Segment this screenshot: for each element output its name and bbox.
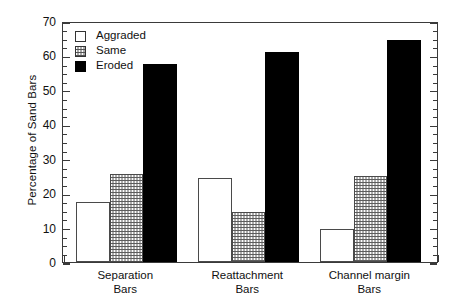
bar-eroded-3	[387, 40, 421, 262]
plot-area: Aggraded Same Eroded	[62, 22, 438, 263]
y-minor-tick	[63, 48, 67, 49]
y-minor-tick	[433, 177, 437, 178]
y-minor-tick	[433, 212, 437, 213]
x-major-tick	[438, 255, 439, 262]
y-minor-tick	[433, 152, 437, 153]
y-major-tick	[63, 229, 70, 230]
bar-same-1	[110, 174, 144, 262]
legend-item-eroded: Eroded	[75, 59, 146, 73]
y-minor-tick	[63, 186, 67, 187]
y-major-tick	[430, 91, 437, 92]
y-minor-tick	[433, 220, 437, 221]
y-minor-tick	[433, 31, 437, 32]
y-tick-label: 30	[28, 154, 56, 166]
x-category-label-line1: Separation	[97, 269, 153, 281]
y-major-tick	[63, 57, 70, 58]
bar-aggraded-3	[320, 229, 354, 262]
y-major-tick	[430, 160, 437, 161]
bar-aggraded-1	[76, 202, 110, 262]
y-tick-label: 60	[28, 50, 56, 62]
legend-label-aggraded: Aggraded	[96, 30, 146, 42]
y-minor-tick	[63, 177, 67, 178]
y-major-tick	[430, 57, 437, 58]
legend-swatch-eroded-icon	[75, 61, 86, 72]
legend-swatch-same-icon	[75, 46, 86, 57]
y-minor-tick	[63, 100, 67, 101]
y-minor-tick	[433, 238, 437, 239]
bar-chart-figure: Percentage of Sand Bars 010203040506070 …	[0, 0, 451, 308]
bar-same-3	[354, 176, 388, 262]
y-minor-tick	[433, 109, 437, 110]
y-major-tick	[430, 263, 437, 264]
y-minor-tick	[63, 40, 67, 41]
y-minor-tick	[433, 203, 437, 204]
legend-label-same: Same	[96, 45, 126, 57]
y-major-tick	[63, 126, 70, 127]
y-minor-tick	[63, 220, 67, 221]
y-minor-tick	[63, 152, 67, 153]
x-major-tick	[64, 255, 65, 262]
y-minor-tick	[433, 143, 437, 144]
legend-label-eroded: Eroded	[96, 60, 133, 72]
y-major-tick	[63, 22, 70, 23]
x-category-label-line2: Bars	[289, 282, 449, 296]
y-major-tick	[430, 195, 437, 196]
y-minor-tick	[63, 66, 67, 67]
y-minor-tick	[433, 83, 437, 84]
x-category-label: Channel marginBars	[289, 268, 449, 296]
y-major-tick	[430, 229, 437, 230]
legend-swatch-aggraded-icon	[75, 31, 86, 42]
y-major-tick	[63, 91, 70, 92]
legend-item-aggraded: Aggraded	[75, 29, 146, 43]
y-tick-label: 40	[28, 119, 56, 131]
y-minor-tick	[433, 66, 437, 67]
bar-eroded-2	[265, 52, 299, 262]
y-minor-tick	[433, 48, 437, 49]
y-minor-tick	[433, 255, 437, 256]
y-major-tick	[63, 195, 70, 196]
y-major-tick	[63, 160, 70, 161]
y-major-tick	[430, 22, 437, 23]
y-minor-tick	[433, 134, 437, 135]
y-minor-tick	[63, 134, 67, 135]
y-major-tick	[63, 263, 70, 264]
x-category-label-line1: Reattachment	[211, 269, 283, 281]
bar-aggraded-2	[198, 178, 232, 262]
y-tick-label: 50	[28, 85, 56, 97]
y-minor-tick	[63, 238, 67, 239]
y-minor-tick	[433, 40, 437, 41]
y-minor-tick	[63, 109, 67, 110]
y-minor-tick	[433, 246, 437, 247]
y-minor-tick	[63, 117, 67, 118]
y-minor-tick	[433, 74, 437, 75]
y-minor-tick	[433, 117, 437, 118]
y-minor-tick	[63, 246, 67, 247]
y-minor-tick	[63, 74, 67, 75]
y-minor-tick	[433, 100, 437, 101]
y-minor-tick	[63, 83, 67, 84]
y-minor-tick	[433, 169, 437, 170]
y-major-tick	[430, 126, 437, 127]
x-category-label-line1: Channel margin	[329, 269, 410, 281]
bar-eroded-1	[143, 64, 177, 262]
chart-legend: Aggraded Same Eroded	[75, 29, 146, 74]
y-minor-tick	[63, 212, 67, 213]
y-axis-tick-labels: 010203040506070	[22, 0, 56, 308]
y-minor-tick	[63, 203, 67, 204]
legend-item-same: Same	[75, 44, 146, 58]
y-minor-tick	[63, 143, 67, 144]
y-tick-label: 10	[28, 223, 56, 235]
y-minor-tick	[63, 31, 67, 32]
y-tick-label: 70	[28, 16, 56, 28]
bar-same-2	[232, 212, 266, 262]
y-minor-tick	[63, 169, 67, 170]
y-tick-label: 20	[28, 188, 56, 200]
y-minor-tick	[433, 186, 437, 187]
